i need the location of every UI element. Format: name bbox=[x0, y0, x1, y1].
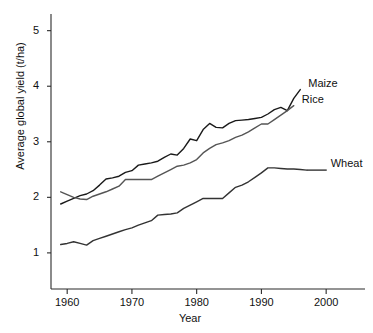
x-axis-tick-label: 1960 bbox=[47, 296, 87, 308]
x-axis-tick-label: 1990 bbox=[241, 296, 281, 308]
x-axis-tick-label: 1980 bbox=[177, 296, 217, 308]
series-line-rice bbox=[61, 106, 294, 200]
y-axis-title: Average global yield (t/ha) bbox=[14, 26, 26, 186]
x-axis-title: Year bbox=[150, 312, 230, 324]
y-axis-tick-label: 1 bbox=[19, 246, 39, 258]
y-axis-tick-label: 2 bbox=[19, 190, 39, 202]
series-line-maize bbox=[61, 90, 301, 204]
axes-group bbox=[47, 14, 365, 294]
plot-area bbox=[0, 0, 373, 333]
series-label-wheat: Wheat bbox=[331, 157, 363, 169]
series-line-wheat bbox=[61, 168, 307, 245]
y-axis-ticks bbox=[47, 31, 51, 253]
x-axis-tick-label: 2000 bbox=[306, 296, 346, 308]
x-axis-ticks bbox=[67, 289, 326, 294]
series-lines bbox=[61, 90, 327, 246]
series-label-maize: Maize bbox=[308, 77, 337, 89]
series-label-rice: Rice bbox=[302, 93, 324, 105]
yield-line-chart: 12345 19601970198019902000 Average globa… bbox=[0, 0, 373, 333]
x-axis-tick-label: 1970 bbox=[112, 296, 152, 308]
